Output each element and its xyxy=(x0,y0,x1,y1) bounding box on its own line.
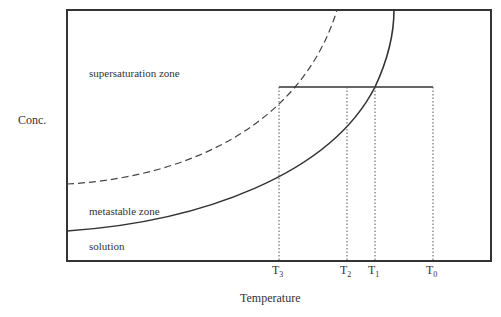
y-axis-label: Conc. xyxy=(18,113,46,128)
tick-t0: T0 xyxy=(426,263,437,279)
x-axis-label: Temperature xyxy=(240,291,300,306)
solubility-curve xyxy=(67,10,394,231)
supersolubility-curve xyxy=(67,10,337,184)
tick-t1: T1 xyxy=(368,263,379,279)
tick-t3: T3 xyxy=(272,263,283,279)
solution-zone-label: solution xyxy=(89,240,124,252)
supersaturation-zone-label: supersaturation zone xyxy=(89,67,180,79)
metastable-zone-label: metastable zone xyxy=(89,205,160,217)
tick-t2: T2 xyxy=(340,263,351,279)
